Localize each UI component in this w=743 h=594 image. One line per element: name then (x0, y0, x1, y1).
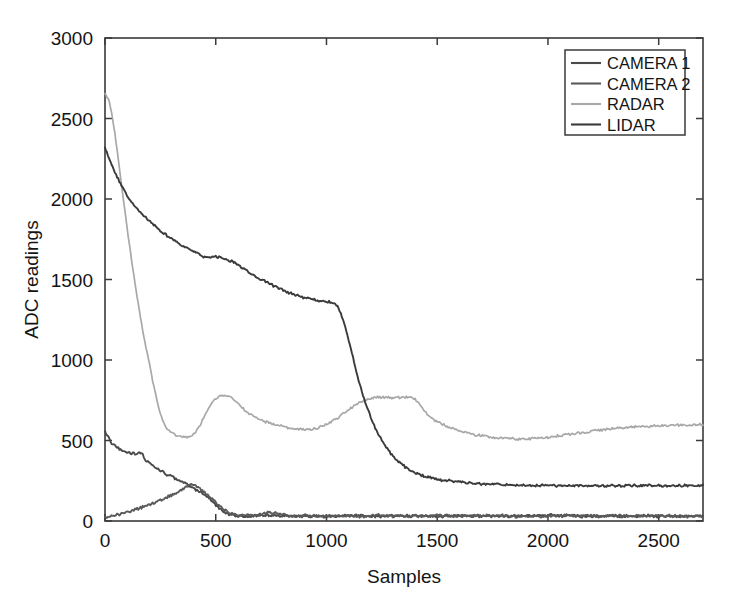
x-tick-label: 0 (100, 530, 111, 551)
chart-legend: CAMERA 1CAMERA 2RADARLIDAR (565, 50, 690, 135)
y-tick-label: 1500 (51, 270, 93, 291)
y-tick-label: 0 (82, 511, 93, 532)
x-axis-label: Samples (367, 566, 441, 587)
x-tick-label: 500 (200, 530, 232, 551)
y-tick-label: 3000 (51, 28, 93, 49)
y-tick-label: 2000 (51, 189, 93, 210)
legend-label-camera-1: CAMERA 1 (607, 54, 690, 72)
y-tick-label: 500 (61, 431, 93, 452)
x-tick-label: 1000 (305, 530, 347, 551)
line-chart: 0500100015002000250005001000150020002500… (0, 0, 743, 594)
y-tick-label: 2500 (51, 109, 93, 130)
x-tick-label: 2000 (527, 530, 569, 551)
y-tick-label: 1000 (51, 350, 93, 371)
legend-label-lidar: LIDAR (607, 116, 656, 134)
legend-label-radar: RADAR (607, 95, 665, 113)
x-tick-label: 1500 (416, 530, 458, 551)
x-tick-label: 2500 (638, 530, 680, 551)
chart-figure: 0500100015002000250005001000150020002500… (0, 0, 743, 594)
legend-label-camera-2: CAMERA 2 (607, 75, 690, 93)
y-axis-label: ADC readings (21, 220, 42, 338)
